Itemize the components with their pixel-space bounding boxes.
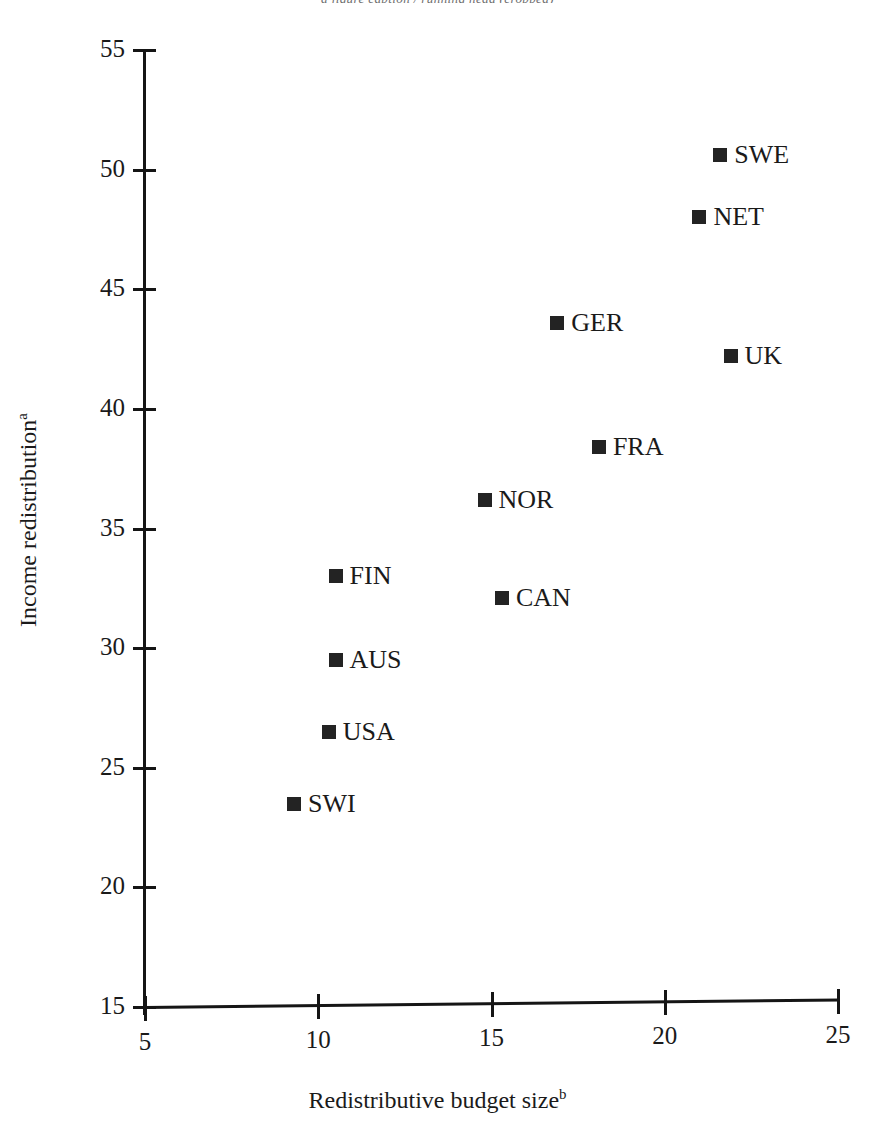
data-point-label-swe: SWE (734, 140, 789, 170)
y-axis-title: Income redistributiona (14, 413, 42, 627)
y-tick-label-35: 35 (81, 515, 125, 540)
square-marker-icon (692, 210, 706, 224)
y-tick-label-50: 50 (81, 156, 125, 181)
x-tick-label-5: 5 (115, 1029, 175, 1054)
y-axis-title-container: Income redistributiona (8, 0, 48, 1040)
y-tick-label-30: 30 (81, 634, 125, 659)
y-tick-label-15: 15 (81, 993, 125, 1018)
square-marker-icon (287, 797, 301, 811)
x-axis-title: Redistributive budget sizeb (0, 1086, 875, 1114)
data-point-label-fin: FIN (350, 561, 392, 591)
x-tick-label-15: 15 (462, 1025, 522, 1050)
square-marker-icon (495, 591, 509, 605)
square-marker-icon (713, 148, 727, 162)
data-point-label-fra: FRA (613, 432, 664, 462)
x-tick-label-10: 10 (288, 1027, 348, 1052)
square-marker-icon (322, 725, 336, 739)
square-marker-icon (724, 349, 738, 363)
x-axis-title-text: Redistributive budget size (308, 1087, 559, 1113)
cropped-running-head: a figure caption / running head (cropped… (0, 0, 875, 3)
x-axis-title-footnote: b (559, 1086, 566, 1102)
data-point-label-net: NET (713, 202, 764, 232)
y-axis-title-text: Income redistribution (15, 420, 41, 627)
y-tick-label-25: 25 (81, 754, 125, 779)
square-marker-icon (329, 569, 343, 583)
x-tick-label-20: 20 (635, 1023, 695, 1048)
square-marker-icon (592, 440, 606, 454)
scatter-plot-figure: a figure caption / running head (cropped… (0, 0, 875, 1143)
y-tick-label-45: 45 (81, 275, 125, 300)
x-tick-label-25: 25 (808, 1022, 868, 1047)
data-point-label-ger: GER (571, 308, 623, 338)
y-axis-title-footnote: a (14, 413, 30, 420)
square-marker-icon (550, 316, 564, 330)
data-point-label-uk: UK (745, 341, 783, 371)
y-tick-label-55: 55 (81, 36, 125, 61)
y-tick-label-40: 40 (81, 395, 125, 420)
y-tick-label-20: 20 (81, 873, 125, 898)
data-point-label-aus: AUS (350, 645, 402, 675)
square-marker-icon (329, 653, 343, 667)
square-marker-icon (478, 493, 492, 507)
data-point-label-can: CAN (516, 583, 571, 613)
data-point-label-nor: NOR (499, 485, 554, 515)
plot-area: SWENETGERUKFRANORFINCANAUSUSASWI (145, 50, 838, 1013)
data-point-label-swi: SWI (308, 789, 356, 819)
data-point-label-usa: USA (343, 717, 395, 747)
